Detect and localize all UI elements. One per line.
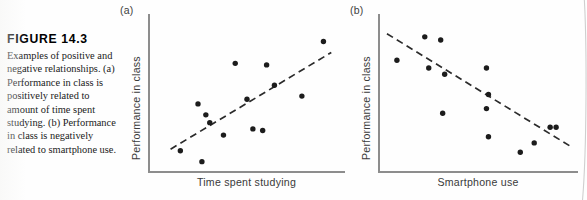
scatter-plot-b [348,0,587,200]
scatter-point [272,83,277,88]
scatter-point [442,72,447,77]
scatter-point [199,159,204,164]
scatter-point [233,61,238,66]
scatter-point [518,150,523,155]
scatter-point [553,125,558,130]
scatter-point [260,128,265,133]
scatter-point [178,148,183,153]
scatter-point [484,106,489,111]
scatter-point [221,132,226,137]
scatter-point [203,112,208,117]
chart-panel-b: (b) Performance in class Smartphone use [348,0,587,200]
figure-root: FIGURE 14.3 Examples of positive and neg… [0,0,587,200]
scatter-point [486,134,491,139]
scatter-point [244,97,249,102]
scatter-point [438,37,443,42]
scatter-plot-a [118,0,350,200]
chart-panel-a: (a) Performance in class Time spent stud… [118,0,350,200]
scatter-point [394,58,399,63]
scatter-point [422,34,427,39]
scatter-point [299,93,304,98]
scatter-point [250,126,255,131]
scatter-point [426,65,431,70]
scatter-point [547,125,552,130]
scatter-point [532,140,537,145]
figure-caption-block: FIGURE 14.3 Examples of positive and neg… [7,32,119,156]
trend-line [171,52,332,149]
figure-number-label: FIGURE 14.3 [7,32,119,47]
scatter-point [440,111,445,116]
scatter-point [195,101,200,106]
scatter-point [264,62,269,67]
scatter-point [484,65,489,70]
trend-line [387,34,570,146]
scatter-point [486,92,491,97]
scatter-point [207,120,212,125]
figure-caption-text: Examples of positive and negative relati… [7,49,119,156]
scatter-point [321,39,326,44]
